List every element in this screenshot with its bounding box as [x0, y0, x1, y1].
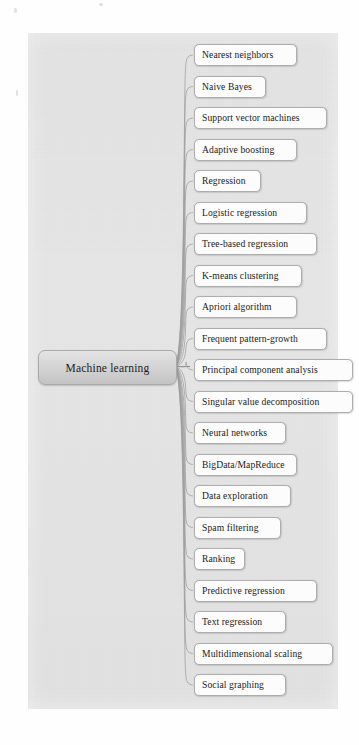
branch-node[interactable]: Social graphing: [194, 674, 286, 696]
branch-node[interactable]: Apriori algorithm: [194, 296, 297, 318]
scan-speck: [14, 8, 17, 13]
branch-node-label: Text regression: [202, 617, 262, 627]
branch-node-label: Regression: [202, 176, 246, 186]
branch-node-label: Data exploration: [202, 491, 268, 501]
branch-node[interactable]: Tree-based regression: [194, 233, 317, 255]
branch-node[interactable]: Principal component analysis: [194, 359, 353, 381]
branch-node-label: Tree-based regression: [202, 239, 288, 249]
branch-node[interactable]: Naive Bayes: [194, 76, 266, 98]
scan-speck: [99, 3, 103, 6]
branch-node[interactable]: Multidimensional scaling: [194, 643, 333, 665]
branch-node[interactable]: Adaptive boosting: [194, 139, 297, 161]
branch-node-label: Predictive regression: [202, 586, 285, 596]
branch-node[interactable]: Ranking: [194, 548, 245, 570]
branch-node[interactable]: Predictive regression: [194, 580, 317, 602]
branch-node-label: Neural networks: [202, 428, 267, 438]
branch-node[interactable]: Spam filtering: [194, 517, 281, 539]
branch-node-label: Apriori algorithm: [202, 302, 272, 312]
branch-node-label: Spam filtering: [202, 523, 259, 533]
branch-node-label: Logistic regression: [202, 208, 277, 218]
branch-node[interactable]: BigData/MapReduce: [194, 454, 297, 476]
branch-node-label: Nearest neighbors: [202, 50, 273, 60]
branch-node-label: Principal component analysis: [202, 365, 318, 375]
branch-node-label: K-means clustering: [202, 271, 279, 281]
branch-node[interactable]: Nearest neighbors: [194, 44, 297, 66]
branch-node-label: BigData/MapReduce: [202, 460, 285, 470]
branch-node-label: Multidimensional scaling: [202, 649, 302, 659]
scan-speck: [16, 90, 18, 96]
root-node-machine-learning[interactable]: Machine learning: [38, 350, 177, 385]
branch-node[interactable]: Singular value decomposition: [194, 391, 353, 413]
branch-node-label: Social graphing: [202, 680, 264, 690]
branch-node-label: Frequent pattern-growth: [202, 334, 298, 344]
branch-node-label: Naive Bayes: [202, 82, 252, 92]
branch-node-label: Adaptive boosting: [202, 145, 274, 155]
branch-node[interactable]: Regression: [194, 170, 261, 192]
scanned-page: Machine learning Nearest neighborsNaive …: [0, 0, 359, 745]
branch-node-label: Support vector machines: [202, 113, 300, 123]
branch-node[interactable]: Data exploration: [194, 485, 291, 507]
branch-node-label: Singular value decomposition: [202, 397, 319, 407]
branch-node[interactable]: Neural networks: [194, 422, 286, 444]
branch-node[interactable]: Support vector machines: [194, 107, 327, 129]
branch-node[interactable]: K-means clustering: [194, 265, 302, 287]
branch-node[interactable]: Text regression: [194, 611, 286, 633]
branch-node-label: Ranking: [202, 554, 235, 564]
branch-node[interactable]: Logistic regression: [194, 202, 307, 224]
root-node-label: Machine learning: [66, 362, 150, 374]
branch-node[interactable]: Frequent pattern-growth: [194, 328, 327, 350]
